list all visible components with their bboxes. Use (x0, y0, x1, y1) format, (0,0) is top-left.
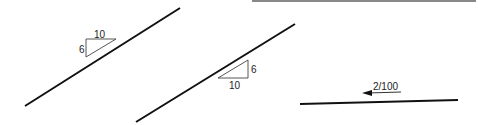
ratio-label: 2/100 (373, 81, 398, 92)
slope-line (136, 24, 295, 122)
slope-triangle-icon (86, 39, 116, 57)
rise-label: 6 (251, 64, 257, 75)
slope-line (300, 100, 458, 104)
panel-slope-triangle-below: 10 6 (136, 24, 295, 122)
arrow-shaft (368, 92, 401, 93)
panel-slope-ratio-arrow: 2/100 (300, 81, 458, 104)
rise-label: 6 (79, 44, 85, 55)
slope-line (25, 8, 180, 106)
slope-diagram: 10 6 10 6 2/100 (0, 0, 478, 125)
run-label: 10 (94, 29, 106, 40)
panel-slope-triangle-above: 10 6 (25, 8, 180, 106)
run-label: 10 (229, 80, 241, 91)
arrow-left-icon (362, 90, 372, 96)
